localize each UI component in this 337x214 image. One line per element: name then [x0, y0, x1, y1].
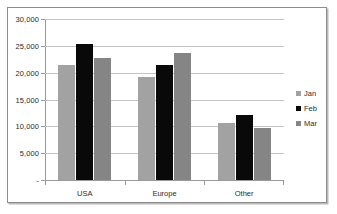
- legend-label: Jan: [304, 89, 316, 98]
- bar-other-jan[interactable]: [218, 123, 235, 180]
- category-label: USA: [45, 189, 125, 198]
- y-tick-label: 20,000: [15, 68, 39, 77]
- bar-other-feb[interactable]: [236, 115, 253, 180]
- bar-group: USA: [45, 19, 125, 180]
- y-tick-label: -: [36, 176, 39, 185]
- x-tick-mark: [204, 181, 205, 185]
- chart-legend: JanFebMar: [296, 86, 330, 131]
- category-label: Other: [204, 189, 284, 198]
- legend-item-mar[interactable]: Mar: [296, 116, 330, 131]
- x-tick-mark: [45, 181, 46, 185]
- y-tick-label: 10,000: [15, 122, 39, 131]
- legend-swatch-icon: [296, 106, 301, 111]
- bar-group: Other: [204, 19, 284, 180]
- y-tick-label: 30,000: [15, 15, 39, 24]
- bar-europe-feb[interactable]: [156, 65, 173, 180]
- legend-item-jan[interactable]: Jan: [296, 86, 330, 101]
- category-label: Europe: [125, 189, 205, 198]
- legend-swatch-icon: [296, 121, 301, 126]
- y-tick-label: 15,000: [15, 95, 39, 104]
- y-tick-label: 5,000: [20, 149, 39, 158]
- bar-group: Europe: [125, 19, 205, 180]
- legend-label: Mar: [304, 119, 317, 128]
- legend-label: Feb: [304, 104, 317, 113]
- chart-frame: -5,00010,00015,00020,00025,00030,000 USA…: [7, 7, 327, 203]
- x-axis-line: [45, 180, 284, 181]
- legend-item-feb[interactable]: Feb: [296, 101, 330, 116]
- bar-usa-mar[interactable]: [94, 58, 111, 180]
- bar-other-mar[interactable]: [254, 128, 271, 180]
- bar-europe-mar[interactable]: [174, 53, 191, 180]
- bar-usa-feb[interactable]: [76, 44, 93, 180]
- y-tick-label: 25,000: [15, 41, 39, 50]
- x-tick-mark: [125, 181, 126, 185]
- plot-area: -5,00010,00015,00020,00025,00030,000 USA…: [45, 19, 284, 181]
- bar-europe-jan[interactable]: [138, 77, 155, 180]
- legend-swatch-icon: [296, 91, 301, 96]
- bar-usa-jan[interactable]: [58, 65, 75, 180]
- x-tick-mark: [283, 181, 284, 185]
